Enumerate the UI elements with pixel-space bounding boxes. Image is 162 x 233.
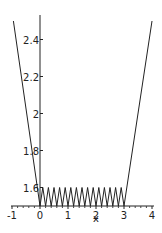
- x-axis-label: x: [93, 213, 99, 224]
- y-tick-label: 2.4: [23, 35, 39, 46]
- y-tick-label: 2.2: [23, 72, 39, 83]
- plot-area: -101234 1.61.822.22.4 x: [0, 0, 162, 233]
- x-tick-label: 1: [65, 210, 71, 221]
- x-tick-label: 4: [149, 210, 155, 221]
- x-tick-label: -1: [7, 210, 17, 221]
- x-ticks: -101234: [7, 206, 155, 221]
- y-tick-label: 2: [33, 109, 39, 120]
- x-tick-label: 0: [37, 210, 43, 221]
- x-tick-label: 3: [121, 210, 127, 221]
